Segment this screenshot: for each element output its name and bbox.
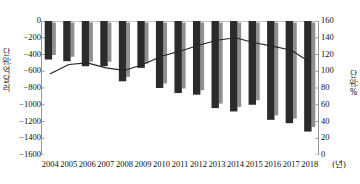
bar-side-face — [312, 23, 316, 128]
x-tick-label: 2015 — [246, 159, 263, 169]
bar — [63, 21, 70, 61]
bar — [249, 21, 256, 105]
bar — [156, 21, 163, 88]
bar-side-face — [219, 23, 223, 104]
bar-side-face — [145, 23, 149, 64]
bar-side-face — [163, 23, 167, 84]
bar-side-face — [71, 23, 75, 57]
series-svg — [41, 21, 319, 155]
bar-side-face — [256, 23, 260, 101]
x-tick-label: 2008 — [116, 159, 133, 169]
bar-side-face — [52, 23, 56, 56]
bar — [267, 21, 274, 120]
bar-side-face — [293, 23, 297, 119]
plot-area — [41, 21, 319, 155]
x-tick-label: 2007 — [97, 159, 114, 169]
x-tick-label: 2017 — [283, 159, 300, 169]
bar-side-face — [237, 23, 241, 107]
bar — [45, 21, 52, 60]
x-tick-label: 2013 — [209, 159, 226, 169]
x-tick-label: 2018 — [301, 159, 318, 169]
bar — [82, 21, 89, 66]
bar-side-face — [89, 23, 93, 62]
bar — [230, 21, 237, 111]
bar-side-face — [108, 23, 112, 62]
bar — [286, 21, 293, 123]
x-tick-label: 2011 — [172, 159, 189, 169]
x-tick-label: 2009 — [134, 159, 151, 169]
bar — [212, 21, 219, 108]
x-tick-label: 2012 — [190, 159, 207, 169]
x-tick-label: 2005 — [60, 159, 77, 169]
x-tick-label: 2014 — [227, 159, 244, 169]
bar-side-face — [182, 23, 186, 89]
x-tick-label: 2006 — [79, 159, 96, 169]
bar — [137, 21, 144, 68]
bar-side-face — [200, 23, 204, 91]
x-tick-label: 2010 — [153, 159, 170, 169]
chart-container: 단위: 억 달러 단위: % 0−200−400−600−800−1000−12… — [0, 0, 360, 184]
x-tick-label: 2004 — [42, 159, 59, 169]
bar — [119, 21, 126, 81]
bar — [304, 21, 311, 132]
bar — [100, 21, 107, 66]
bar — [193, 21, 200, 95]
bar-side-face — [275, 23, 279, 116]
bar — [174, 21, 181, 93]
x-tick-label: 2016 — [264, 159, 281, 169]
x-axis-unit-label: (년) — [332, 159, 346, 169]
